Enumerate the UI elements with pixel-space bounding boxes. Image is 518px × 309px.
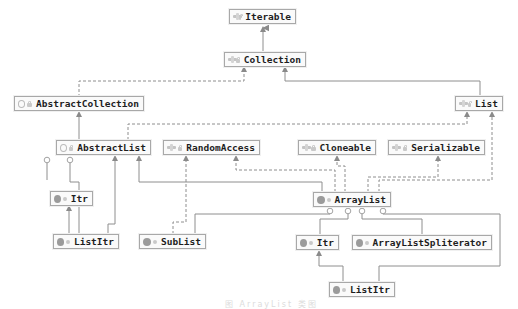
node-label: AbstractList bbox=[77, 142, 146, 153]
node-collection[interactable]: Collection bbox=[224, 52, 306, 67]
node-arraylistspliterator[interactable]: ArrayListSpliterator bbox=[352, 235, 492, 250]
interface-icon bbox=[302, 143, 309, 152]
public-icon bbox=[239, 16, 241, 20]
node-abstractlist[interactable]: AbstractList bbox=[56, 140, 151, 155]
interface-icon bbox=[167, 143, 176, 152]
private-icon bbox=[342, 288, 346, 292]
figure-caption: 图 ArrayList 类图 bbox=[225, 298, 318, 309]
node-label: List bbox=[475, 98, 498, 109]
public-icon bbox=[69, 147, 73, 151]
interface-icon bbox=[459, 99, 466, 108]
node-iterable[interactable]: Iterable bbox=[229, 9, 296, 24]
node-label: Serializable bbox=[411, 142, 480, 153]
abstract-class-icon bbox=[60, 144, 67, 152]
interface-icon bbox=[228, 55, 234, 64]
node-arraylist-itr[interactable]: Itr bbox=[296, 235, 339, 250]
node-label: Itr bbox=[71, 193, 88, 204]
node-label: ArrayListSpliterator bbox=[373, 237, 487, 248]
node-cloneable[interactable]: Cloneable bbox=[298, 140, 376, 155]
class-icon bbox=[356, 239, 363, 247]
abstract-class-icon bbox=[18, 100, 25, 108]
public-icon bbox=[327, 198, 331, 202]
node-serializable[interactable]: Serializable bbox=[388, 140, 485, 155]
public-icon bbox=[27, 103, 32, 107]
interface-icon bbox=[392, 143, 401, 152]
public-icon bbox=[468, 103, 472, 107]
node-label: AbstractCollection bbox=[36, 98, 139, 109]
node-label: Cloneable bbox=[320, 142, 371, 153]
node-label: ListItr bbox=[74, 236, 114, 247]
class-icon bbox=[54, 195, 61, 203]
node-label: SubList bbox=[161, 236, 201, 247]
node-abstractlist-itr[interactable]: Itr bbox=[50, 191, 93, 206]
package-private-icon bbox=[365, 241, 369, 245]
node-label: ListItr bbox=[350, 284, 390, 295]
node-label: Collection bbox=[244, 54, 301, 65]
private-icon bbox=[153, 240, 157, 244]
public-icon bbox=[403, 147, 408, 151]
node-label: ArrayList bbox=[335, 194, 386, 205]
class-icon bbox=[57, 238, 64, 246]
node-abstractlist-listitr[interactable]: ListItr bbox=[53, 234, 119, 249]
interface-icon bbox=[233, 12, 237, 21]
node-abstractcollection[interactable]: AbstractCollection bbox=[14, 96, 144, 111]
node-label: Itr bbox=[317, 237, 334, 248]
private-icon bbox=[309, 241, 313, 245]
node-randomaccess[interactable]: RandomAccess bbox=[163, 140, 260, 155]
class-icon bbox=[317, 196, 325, 204]
private-icon bbox=[63, 197, 67, 201]
node-label: Iterable bbox=[245, 11, 291, 22]
class-icon bbox=[333, 286, 340, 294]
public-icon bbox=[311, 147, 315, 151]
node-arraylist[interactable]: ArrayList bbox=[313, 192, 391, 207]
class-icon bbox=[143, 238, 151, 246]
node-sublist[interactable]: SubList bbox=[139, 234, 206, 249]
node-label: RandomAccess bbox=[186, 142, 255, 153]
class-icon bbox=[300, 239, 307, 247]
public-icon bbox=[236, 59, 240, 63]
node-arraylist-listitr[interactable]: ListItr bbox=[329, 282, 395, 297]
node-list[interactable]: List bbox=[455, 96, 503, 111]
public-icon bbox=[178, 147, 183, 151]
class-diagram: Iterable Collection AbstractCollection L… bbox=[0, 0, 518, 309]
private-icon bbox=[66, 240, 70, 244]
